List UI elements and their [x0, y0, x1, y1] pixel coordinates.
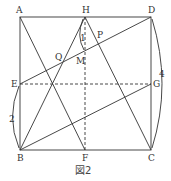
label-h: H	[82, 5, 90, 15]
label-f: F	[82, 153, 88, 163]
label-c: C	[148, 153, 155, 163]
measure-eb: 2	[9, 114, 15, 124]
label-b: B	[17, 153, 24, 163]
label-m: M	[76, 56, 85, 66]
label-a: A	[15, 5, 23, 15]
geometry-figure: A H D E G B F C Q P M 1 2 4 図2	[0, 0, 171, 181]
segment-ed	[20, 17, 151, 84]
label-d: D	[148, 5, 155, 15]
label-g: G	[153, 79, 160, 89]
segment-bg	[20, 84, 151, 150]
segment-hc	[85, 17, 151, 150]
label-q: Q	[55, 52, 62, 62]
label-e: E	[11, 79, 18, 89]
label-p: P	[97, 30, 103, 40]
measure-dc: 4	[159, 69, 165, 79]
figure-caption: 図2	[75, 165, 91, 176]
measure-hm: 1	[80, 33, 86, 43]
